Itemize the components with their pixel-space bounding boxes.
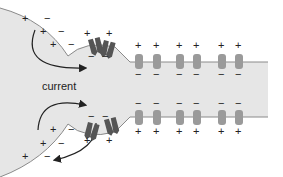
- plus-charge: +: [22, 150, 28, 162]
- plus-charge: +: [193, 125, 199, 137]
- plus-charge: +: [50, 38, 56, 50]
- minus-charge: −: [44, 12, 50, 24]
- minus-charge: −: [135, 68, 141, 80]
- plus-charge: +: [40, 25, 46, 37]
- minus-charge: −: [68, 38, 74, 50]
- minus-charge: −: [88, 50, 94, 62]
- minus-charge: −: [153, 97, 159, 109]
- minus-charge: −: [58, 137, 64, 149]
- minus-charge: −: [235, 68, 241, 80]
- minus-charge: −: [68, 123, 74, 135]
- minus-charge: −: [102, 110, 108, 122]
- minus-charge: −: [153, 68, 159, 80]
- minus-charge: −: [176, 97, 182, 109]
- plus-charge: +: [84, 27, 90, 39]
- plus-charge: +: [135, 125, 141, 137]
- plus-charge: +: [218, 39, 224, 51]
- plus-charge: +: [84, 134, 90, 146]
- minus-charge: −: [88, 110, 94, 122]
- plus-charge: +: [235, 39, 241, 51]
- plus-charge: +: [193, 39, 199, 51]
- plus-charge: +: [176, 39, 182, 51]
- minus-charge: −: [102, 50, 108, 62]
- minus-charge: −: [235, 97, 241, 109]
- plus-charge: +: [40, 137, 46, 149]
- plus-charge: +: [153, 125, 159, 137]
- plus-charge: +: [235, 125, 241, 137]
- current-label: current: [42, 80, 76, 92]
- plus-charge: +: [218, 125, 224, 137]
- minus-charge: −: [135, 97, 141, 109]
- plus-charge: +: [106, 134, 112, 146]
- plus-charge: +: [106, 27, 112, 39]
- minus-charge: −: [176, 68, 182, 80]
- minus-charge: −: [58, 25, 64, 37]
- plus-charge: +: [22, 12, 28, 24]
- plus-charge: +: [135, 39, 141, 51]
- plus-charge: +: [153, 39, 159, 51]
- minus-charge: −: [44, 150, 50, 162]
- minus-charge: −: [193, 97, 199, 109]
- plus-charge: +: [50, 123, 56, 135]
- plus-charge: +: [176, 125, 182, 137]
- minus-charge: −: [193, 68, 199, 80]
- minus-charge: −: [218, 68, 224, 80]
- minus-charge: −: [218, 97, 224, 109]
